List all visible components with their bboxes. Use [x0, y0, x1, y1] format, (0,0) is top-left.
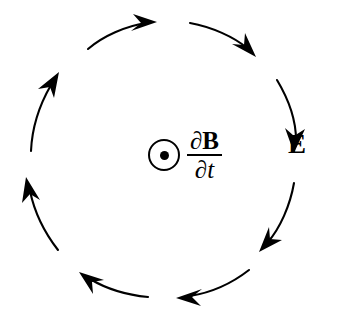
arrow-right-lower [259, 183, 294, 252]
fraction-numerator: ∂B [187, 128, 222, 154]
physics-diagram: ∂B ∂t E [0, 0, 339, 326]
arrow-left-lower [22, 177, 58, 250]
partial-derivative-fraction: ∂B ∂t [187, 128, 222, 182]
arrow-top-left [88, 14, 157, 49]
center-field-group: ∂B ∂t [148, 128, 222, 182]
arrow-left-upper [31, 72, 59, 151]
arrow-top-right [190, 23, 256, 57]
fraction-denominator: ∂t [192, 156, 217, 182]
magnetic-field-vector-label: B [202, 127, 219, 154]
circle-dot-out-of-page-icon [148, 139, 180, 171]
partial-operator-symbol: ∂ [190, 127, 202, 154]
arrow-bottom-left [79, 272, 148, 297]
arrow-bottom-right [176, 270, 249, 306]
electric-field-label: E [288, 131, 306, 158]
